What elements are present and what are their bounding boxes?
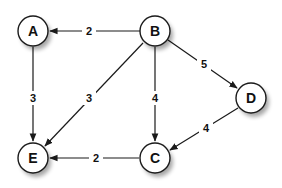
edge-weight-b-c: 4 (152, 92, 159, 104)
node-d: D (236, 83, 269, 117)
node-a: A (18, 16, 51, 50)
edge-weight-a-e: 3 (30, 92, 36, 104)
node-label-c: C (150, 150, 160, 166)
edge-weight-b-d: 5 (201, 58, 207, 70)
node-e: E (18, 143, 51, 177)
node-label-d: D (246, 90, 256, 106)
edge-weight-b-a: 2 (86, 25, 92, 37)
edge-weight-d-c: 4 (203, 122, 210, 134)
node-label-a: A (28, 23, 38, 39)
node-label-e: E (28, 150, 37, 166)
node-b: B (140, 16, 173, 50)
edge-weight-c-e: 2 (93, 152, 99, 164)
edge-weight-b-e: 3 (86, 92, 92, 104)
node-label-b: B (150, 23, 160, 39)
edges: 2 3 3 4 5 4 2 (26, 24, 238, 165)
node-c: C (140, 143, 173, 177)
graph-diagram: 2 3 3 4 5 4 2 A B (0, 0, 282, 188)
